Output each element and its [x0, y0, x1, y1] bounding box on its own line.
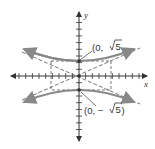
svg-text:5: 5 — [116, 104, 121, 115]
svg-text:(0, −: (0, − — [84, 105, 104, 116]
x-axis-label: x — [143, 79, 148, 89]
leader-bottom — [81, 92, 96, 106]
leader-top — [80, 51, 92, 60]
lower-branch-left — [24, 90, 79, 102]
svg-text:(0,: (0, — [92, 42, 103, 53]
svg-text:): ) — [122, 105, 125, 116]
lower-branch-right — [79, 90, 134, 102]
vertex-top-label: (0, 5 — [92, 40, 122, 53]
vertex-bottom — [77, 88, 81, 92]
y-axis-label: y — [83, 10, 88, 20]
vertex-bottom-label: (0, − 5 ) — [84, 103, 125, 116]
hyperbola-diagram: x y (0, 5 (0, − — [0, 0, 155, 149]
svg-text:5: 5 — [116, 41, 121, 52]
upper-branch-left — [24, 49, 79, 61]
origin-point — [77, 74, 81, 78]
